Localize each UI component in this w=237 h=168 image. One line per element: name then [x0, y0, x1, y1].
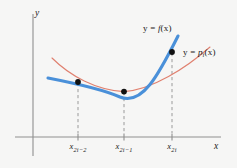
parabola-label-arg: (x) [205, 47, 216, 57]
parabolic-approximation-figure: y x y = f(x) y = pi(x) x2i−2 x2i−1 x2i [0, 0, 237, 168]
y-axis-label: y [35, 9, 39, 19]
function-label-prefix: y = [143, 23, 158, 33]
intersection-point-0 [75, 79, 81, 85]
intersection-point-2 [169, 49, 175, 55]
x-tick-subscript-1: 2i−1 [119, 146, 132, 153]
parabola-label-prefix: y = [183, 47, 198, 57]
parabola-label-name: p [198, 47, 203, 57]
x-tick-label-1: x2i−1 [115, 142, 132, 151]
x-tick-subscript-2: 2i [171, 146, 176, 153]
function-curve-label: y = f(x) [143, 24, 172, 33]
function-label-arg: (x) [161, 23, 172, 33]
x-tick-subscript-0: 2i−2 [73, 146, 86, 153]
x-axis-label: x [214, 142, 218, 152]
x-tick-label-2: x2i [167, 142, 176, 151]
parabola-label-subscript: i [203, 51, 205, 58]
x-tick-label-0: x2i−2 [69, 142, 86, 151]
intersection-point-1 [121, 89, 127, 95]
parabola-curve-label: y = pi(x) [183, 48, 216, 57]
